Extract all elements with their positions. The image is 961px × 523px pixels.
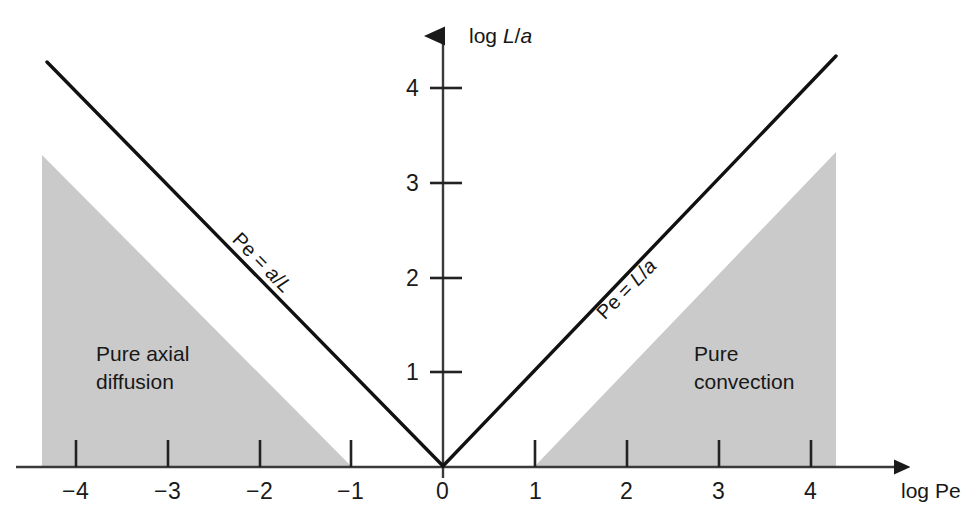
x-tick-label-1: 1 — [529, 478, 542, 505]
region-pure-axial-diffusion — [42, 155, 351, 466]
region-label-pure-convection: Pure convection — [694, 340, 794, 395]
x-tick-label-neg2: −2 — [246, 478, 273, 505]
y-axis-title: log L/a — [469, 24, 532, 48]
y-axis-title-denominator: a — [520, 24, 532, 47]
x-tick-label-2: 2 — [620, 478, 633, 505]
x-axis-title-prefix: log — [901, 479, 929, 502]
x-axis-title: log Pe — [901, 479, 961, 503]
y-axis-title-numerator: L — [503, 24, 515, 47]
region-label-left-line2: diffusion — [96, 368, 189, 396]
y-axis-title-prefix: log — [469, 24, 497, 47]
x-tick-label-neg1: −1 — [337, 478, 364, 505]
x-tick-label-neg4: −4 — [62, 478, 89, 505]
x-tick-label-4: 4 — [804, 478, 817, 505]
y-axis-ticks — [430, 88, 462, 372]
y-tick-label-4: 4 — [406, 75, 419, 102]
y-tick-label-1: 1 — [406, 359, 419, 386]
region-label-left-line1: Pure axial — [96, 340, 189, 368]
x-tick-label-0: 0 — [436, 478, 449, 505]
x-axis-title-symbol: Pe — [935, 479, 961, 502]
region-label-right-line1: Pure — [694, 340, 794, 368]
region-label-right-line2: convection — [694, 368, 794, 396]
x-tick-label-3: 3 — [712, 478, 725, 505]
region-label-pure-axial-diffusion: Pure axial diffusion — [96, 340, 189, 395]
y-tick-label-3: 3 — [406, 170, 419, 197]
y-tick-label-2: 2 — [406, 265, 419, 292]
region-pure-convection — [535, 152, 836, 466]
x-tick-label-neg3: −3 — [154, 478, 181, 505]
